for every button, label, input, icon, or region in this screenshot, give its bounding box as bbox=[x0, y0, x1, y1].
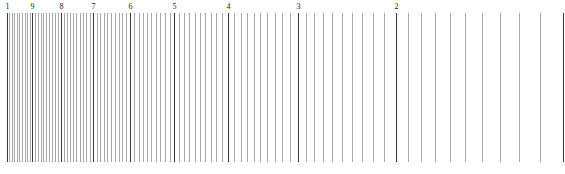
minor-tick-line bbox=[27, 13, 28, 162]
minor-tick-line bbox=[76, 13, 77, 162]
minor-tick-line bbox=[211, 13, 212, 162]
minor-tick-line bbox=[200, 13, 201, 162]
minor-tick-line bbox=[86, 13, 87, 162]
minor-tick-line bbox=[342, 13, 343, 162]
minor-tick-line bbox=[104, 13, 105, 162]
major-tick-line bbox=[563, 13, 564, 162]
minor-tick-line bbox=[332, 13, 333, 162]
minor-tick-line bbox=[254, 13, 255, 162]
minor-tick-line bbox=[260, 13, 261, 162]
major-tick-line bbox=[61, 13, 62, 162]
minor-tick-line bbox=[83, 13, 84, 162]
major-tick-line bbox=[130, 13, 131, 162]
minor-tick-line bbox=[179, 13, 180, 162]
minor-tick-line bbox=[247, 13, 248, 162]
minor-tick-line bbox=[80, 13, 81, 162]
tick-label: 6 bbox=[129, 2, 133, 11]
minor-tick-line bbox=[352, 13, 353, 162]
minor-tick-line bbox=[12, 13, 13, 162]
minor-tick-line bbox=[14, 13, 15, 162]
minor-tick-line bbox=[134, 13, 135, 162]
minor-tick-line bbox=[222, 13, 223, 162]
minor-tick-line bbox=[9, 13, 10, 162]
minor-tick-line bbox=[19, 13, 20, 162]
minor-tick-line bbox=[384, 13, 385, 162]
minor-tick-line bbox=[282, 13, 283, 162]
minor-tick-line bbox=[267, 13, 268, 162]
minor-tick-line bbox=[49, 13, 50, 162]
minor-tick-line bbox=[22, 13, 23, 162]
minor-tick-line bbox=[195, 13, 196, 162]
minor-tick-line bbox=[323, 13, 324, 162]
minor-tick-line bbox=[519, 13, 520, 162]
minor-tick-line bbox=[421, 13, 422, 162]
minor-tick-line bbox=[450, 13, 451, 162]
minor-tick-line bbox=[70, 13, 71, 162]
minor-tick-line bbox=[147, 13, 148, 162]
minor-tick-line bbox=[107, 13, 108, 162]
minor-tick-line bbox=[165, 13, 166, 162]
minor-tick-line bbox=[216, 13, 217, 162]
minor-tick-line bbox=[58, 13, 59, 162]
tick-label: 1 bbox=[6, 2, 10, 11]
minor-tick-line bbox=[64, 13, 65, 162]
minor-tick-line bbox=[90, 13, 91, 162]
minor-tick-line bbox=[234, 13, 235, 162]
minor-tick-line bbox=[41, 13, 42, 162]
minor-tick-line bbox=[408, 13, 409, 162]
minor-tick-line bbox=[115, 13, 116, 162]
minor-tick-line bbox=[205, 13, 206, 162]
minor-tick-line bbox=[306, 13, 307, 162]
major-tick-line bbox=[32, 13, 33, 162]
minor-tick-line bbox=[540, 13, 541, 162]
minor-tick-line bbox=[52, 13, 53, 162]
minor-tick-line bbox=[126, 13, 127, 162]
minor-tick-line bbox=[435, 13, 436, 162]
minor-tick-line bbox=[30, 13, 31, 162]
minor-tick-line bbox=[25, 13, 26, 162]
minor-tick-line bbox=[67, 13, 68, 162]
minor-tick-line bbox=[119, 13, 120, 162]
tick-label: 4 bbox=[227, 2, 231, 11]
minor-tick-line bbox=[100, 13, 101, 162]
minor-tick-line bbox=[184, 13, 185, 162]
minor-tick-line bbox=[290, 13, 291, 162]
minor-tick-line bbox=[38, 13, 39, 162]
minor-tick-line bbox=[35, 13, 36, 162]
tick-label: 5 bbox=[173, 2, 177, 11]
minor-tick-line bbox=[373, 13, 374, 162]
log-scale: 198765432 bbox=[0, 0, 565, 174]
tick-label: 9 bbox=[31, 2, 35, 11]
major-tick-line bbox=[298, 13, 299, 162]
minor-tick-line bbox=[122, 13, 123, 162]
minor-tick-line bbox=[482, 13, 483, 162]
minor-tick-line bbox=[170, 13, 171, 162]
minor-tick-line bbox=[465, 13, 466, 162]
minor-tick-line bbox=[97, 13, 98, 162]
minor-tick-line bbox=[151, 13, 152, 162]
minor-tick-line bbox=[143, 13, 144, 162]
major-tick-line bbox=[93, 13, 94, 162]
minor-tick-line bbox=[43, 13, 44, 162]
minor-tick-line bbox=[17, 13, 18, 162]
minor-tick-line bbox=[189, 13, 190, 162]
minor-tick-line bbox=[362, 13, 363, 162]
major-tick-line bbox=[7, 13, 8, 162]
minor-tick-line bbox=[275, 13, 276, 162]
tick-label: 3 bbox=[297, 2, 301, 11]
minor-tick-line bbox=[139, 13, 140, 162]
minor-tick-line bbox=[156, 13, 157, 162]
tick-label: 2 bbox=[395, 2, 399, 11]
minor-tick-line bbox=[111, 13, 112, 162]
minor-tick-line bbox=[73, 13, 74, 162]
major-tick-line bbox=[174, 13, 175, 162]
minor-tick-line bbox=[55, 13, 56, 162]
major-tick-line bbox=[228, 13, 229, 162]
minor-tick-line bbox=[314, 13, 315, 162]
major-tick-line bbox=[396, 13, 397, 162]
minor-tick-line bbox=[160, 13, 161, 162]
minor-tick-line bbox=[500, 13, 501, 162]
minor-tick-line bbox=[46, 13, 47, 162]
minor-tick-line bbox=[241, 13, 242, 162]
tick-label: 8 bbox=[60, 2, 64, 11]
